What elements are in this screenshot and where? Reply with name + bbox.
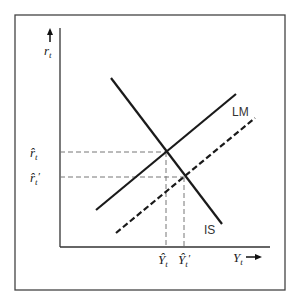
x-tick-y-hat-prime: Ŷt′: [178, 252, 191, 269]
x-axis-arrow-icon: [255, 254, 262, 260]
lm-label: LM: [232, 105, 249, 119]
y-axis-arrow-icon: [47, 28, 53, 35]
is-lm-diagram: LM IS rt r̂t r̂t′ Ŷt Ŷt′ Yt: [0, 0, 297, 305]
is-label: IS: [204, 223, 215, 237]
x-tick-y-hat: Ŷt: [158, 252, 168, 269]
y-tick-r-hat-prime: r̂t′: [30, 170, 41, 187]
y-axis-label: rt: [44, 43, 52, 60]
x-axis-label: Yt: [233, 250, 243, 267]
guide-lines: [60, 152, 184, 247]
y-tick-r-hat: r̂t: [30, 145, 38, 162]
